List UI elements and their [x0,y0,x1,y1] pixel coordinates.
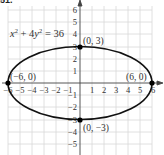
equation-label: x2 + 4y2 = 36 [9,27,64,39]
svg-text:−2: −2 [51,85,60,95]
graph-svg: −6 −5 −4 −3 −2 −1 1 2 3 4 5 6 6 5 4 3 2 … [0,0,164,155]
svg-text:5: 5 [73,17,77,27]
ellipse-graph: 51. [0,0,164,155]
svg-text:−1: −1 [68,90,77,100]
svg-text:4: 4 [126,85,131,95]
svg-text:−2: −2 [68,102,77,112]
svg-text:(−6, 0): (−6, 0) [10,72,36,83]
svg-text:1: 1 [90,85,94,95]
svg-text:2: 2 [73,54,77,64]
x-axis-arrow-icon [157,81,163,85]
x-tick-labels: −6 −5 −4 −3 −2 −1 1 2 3 4 5 6 [3,85,155,95]
point-right [149,80,154,85]
svg-text:(0, 3): (0, 3) [83,36,104,47]
point-top [77,44,82,49]
svg-text:(6, 0): (6, 0) [126,72,147,83]
svg-text:−5: −5 [15,85,24,95]
svg-text:3: 3 [114,85,118,95]
svg-text:2: 2 [102,85,106,95]
svg-text:6: 6 [73,5,77,15]
point-bottom [77,117,82,122]
svg-text:−4: −4 [68,127,78,137]
svg-text:1: 1 [73,66,77,76]
exercise-number: 51. [0,0,13,5]
svg-text:−3: −3 [39,85,48,95]
svg-text:5: 5 [138,85,142,95]
y-tick-labels: 6 5 4 3 2 1 −1 −2 −3 −4 −5 [68,5,78,149]
svg-text:−4: −4 [27,85,37,95]
svg-text:−5: −5 [68,139,77,149]
y-axis-arrow-icon [78,0,82,6]
svg-text:(0, −3): (0, −3) [83,123,109,134]
